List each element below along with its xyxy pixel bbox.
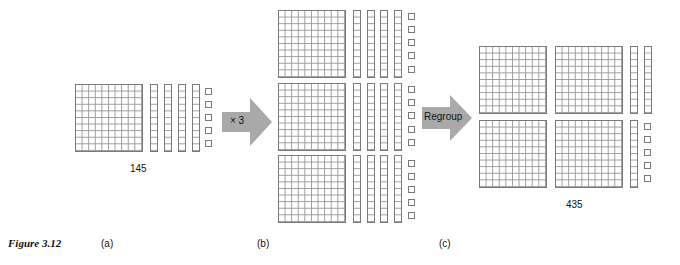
hundreds-flat [75,84,143,152]
unit-cube [205,140,212,147]
unit-cube [408,52,415,59]
unit-cube [644,123,651,130]
tens-rod [353,83,361,151]
unit-cube [408,186,415,193]
hundreds-flat [278,155,346,223]
regroup-arrow-label: Regroup [424,111,462,122]
unit-cube [408,99,415,106]
unit-cube [408,173,415,180]
tens-rod [164,84,172,152]
tens-rod [394,10,402,78]
unit-cube [408,112,415,119]
unit-cube [205,127,212,134]
tens-rod [630,46,638,114]
hundreds-flat [278,83,346,151]
unit-cube [408,26,415,33]
tens-rod [367,83,375,151]
tens-rod [150,84,158,152]
unit-cube [408,86,415,93]
tens-rod [367,155,375,223]
hundreds-flat [278,10,346,78]
tens-rod [353,155,361,223]
unit-cube [408,66,415,73]
unit-cube [408,39,415,46]
caption-b: (b) [257,238,269,249]
unit-cube [408,139,415,146]
caption-a: (a) [101,238,113,249]
unit-cube [644,175,651,182]
value-label-a: 145 [130,163,147,174]
unit-cube [408,13,415,20]
value-label-c: 435 [566,199,583,210]
tens-rod [353,10,361,78]
unit-cube [644,162,651,169]
tens-rod [367,10,375,78]
tens-rod [192,84,200,152]
unit-cube [644,149,651,156]
tens-rod [394,83,402,151]
hundreds-flat [479,46,547,114]
tens-rod [178,84,186,152]
tens-rod [380,10,388,78]
unit-cube [205,101,212,108]
unit-cube [205,114,212,121]
unit-cube [644,136,651,143]
tens-rod [380,155,388,223]
tens-rod [644,46,652,114]
hundreds-flat [555,46,623,114]
tens-rod [630,120,638,188]
hundreds-flat [555,120,623,188]
unit-cube [408,126,415,133]
unit-cube [408,199,415,206]
caption-c: (c) [439,238,451,249]
unit-cube [408,212,415,219]
hundreds-flat [479,120,547,188]
unit-cube [205,88,212,95]
figure-label: Figure 3.12 [8,237,61,249]
tens-rod [394,155,402,223]
multiply-arrow-label: × 3 [230,115,244,126]
unit-cube [408,160,415,167]
tens-rod [380,83,388,151]
